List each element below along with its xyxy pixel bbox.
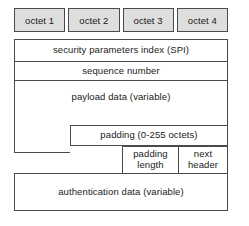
octet-cell-1: octet 1 bbox=[14, 8, 65, 32]
field-padding-row-filler bbox=[70, 146, 123, 174]
field-sequence-number-label: sequence number bbox=[82, 66, 160, 77]
field-payload-data-label: payload data (variable) bbox=[72, 92, 171, 103]
field-authentication-data-label: authentication data (variable) bbox=[58, 187, 184, 198]
field-next-header: next header bbox=[178, 146, 228, 174]
octet-cell-3-label: octet 3 bbox=[134, 15, 163, 26]
field-next-header-label-line2: header bbox=[188, 160, 218, 171]
octet-cell-2-label: octet 2 bbox=[79, 15, 108, 26]
field-spi-label: security parameters index (SPI) bbox=[53, 45, 189, 56]
field-spi: security parameters index (SPI) bbox=[14, 39, 228, 62]
field-payload-data: payload data (variable) bbox=[14, 80, 228, 126]
octet-cell-4-label: octet 4 bbox=[188, 15, 217, 26]
field-padding: padding (0-255 octets) bbox=[70, 125, 228, 146]
octet-cell-1-label: octet 1 bbox=[25, 15, 54, 26]
field-authentication-data: authentication data (variable) bbox=[14, 173, 228, 211]
octet-cell-2: octet 2 bbox=[68, 8, 119, 32]
field-payload-data-extension bbox=[14, 125, 71, 153]
octet-header-row: octet 1 octet 2 octet 3 octet 4 bbox=[14, 8, 228, 32]
packet-diagram-canvas: octet 1 octet 2 octet 3 octet 4 security… bbox=[0, 0, 249, 226]
field-padding-label: padding (0-255 octets) bbox=[100, 130, 197, 141]
field-sequence-number: sequence number bbox=[14, 61, 228, 81]
field-padding-length: padding length bbox=[122, 146, 179, 174]
field-padding-length-label-line2: length bbox=[137, 160, 163, 171]
octet-cell-4: octet 4 bbox=[177, 8, 228, 32]
octet-cell-3: octet 3 bbox=[123, 8, 174, 32]
